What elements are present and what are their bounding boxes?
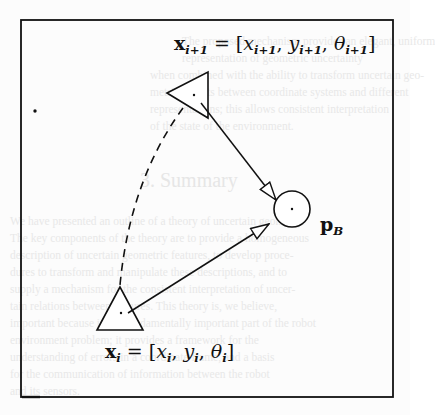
theta-component: θ — [334, 32, 345, 54]
theta-subscript: i+1 — [345, 43, 368, 57]
arrow-lower-to-point — [128, 224, 269, 313]
label-point-b: pB — [320, 213, 343, 235]
pose-vector-symbol: x — [105, 340, 116, 362]
y-component: y — [289, 32, 300, 54]
y-subscript: i+1 — [299, 43, 322, 57]
separator: , — [171, 340, 183, 362]
equals-bracket: = [ — [121, 340, 156, 362]
close-bracket: ] — [368, 32, 375, 54]
separator: , — [199, 340, 211, 362]
pose-vector-symbol: x — [174, 32, 185, 54]
y-component: y — [184, 340, 195, 362]
pose-vector-subscript: i+1 — [185, 43, 208, 57]
point-subscript: B — [333, 224, 343, 238]
stray-dot — [33, 109, 36, 112]
equals-bracket: = [ — [208, 32, 243, 54]
label-pose-i: xi = [xi, yi, θi] — [105, 340, 234, 362]
target-point-center-dot — [291, 208, 293, 210]
separator: , — [277, 32, 289, 54]
x-component: x — [243, 32, 254, 54]
dashed-trajectory-curve — [120, 108, 183, 285]
separator: , — [322, 32, 334, 54]
theta-component: θ — [211, 340, 222, 362]
upper-pose-center-dot — [193, 94, 195, 96]
arrow-upper-to-point — [201, 103, 276, 200]
x-subscript: i+1 — [254, 43, 277, 57]
lower-pose-center-dot — [120, 312, 122, 314]
point-symbol: p — [320, 213, 333, 235]
x-component: x — [156, 340, 167, 362]
label-pose-i-plus-1: xi+1 = [xi+1, yi+1, θi+1] — [174, 32, 375, 54]
upper-pose-triangle — [167, 72, 208, 118]
close-bracket: ] — [227, 340, 234, 362]
